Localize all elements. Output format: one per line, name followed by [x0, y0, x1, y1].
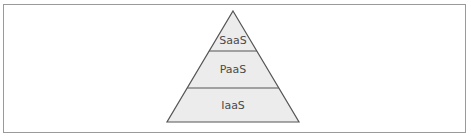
layer-label-paas: PaaS: [220, 63, 247, 76]
layer-label-iaas: IaaS: [221, 99, 245, 112]
service-model-pyramid: SaaS PaaS IaaS: [0, 0, 471, 139]
layer-label-saas: SaaS: [219, 34, 246, 47]
